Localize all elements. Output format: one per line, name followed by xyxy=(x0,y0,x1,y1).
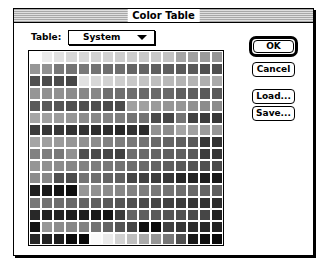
color-cell[interactable] xyxy=(163,52,173,62)
color-cell[interactable] xyxy=(115,210,125,220)
color-cell[interactable] xyxy=(79,222,89,232)
load-button[interactable]: Load... xyxy=(252,89,295,104)
color-cell[interactable] xyxy=(188,101,198,111)
color-cell[interactable] xyxy=(151,149,161,159)
color-cell[interactable] xyxy=(139,198,149,208)
color-cell[interactable] xyxy=(115,101,125,111)
color-cell[interactable] xyxy=(127,198,137,208)
color-cell[interactable] xyxy=(42,76,52,86)
color-cell[interactable] xyxy=(176,185,186,195)
color-cell[interactable] xyxy=(200,210,210,220)
color-cell[interactable] xyxy=(176,234,186,244)
save-button[interactable]: Save... xyxy=(252,106,295,121)
color-cell[interactable] xyxy=(30,234,40,244)
color-cell[interactable] xyxy=(176,76,186,86)
color-cell[interactable] xyxy=(200,52,210,62)
color-cell[interactable] xyxy=(42,222,52,232)
color-cell[interactable] xyxy=(200,173,210,183)
color-cell[interactable] xyxy=(30,88,40,98)
color-cell[interactable] xyxy=(91,149,101,159)
color-cell[interactable] xyxy=(163,125,173,135)
color-cell[interactable] xyxy=(115,185,125,195)
color-cell[interactable] xyxy=(66,173,76,183)
color-cell[interactable] xyxy=(163,210,173,220)
color-cell[interactable] xyxy=(151,185,161,195)
color-cell[interactable] xyxy=(212,198,222,208)
color-cell[interactable] xyxy=(139,185,149,195)
color-cell[interactable] xyxy=(91,64,101,74)
color-cell[interactable] xyxy=(176,137,186,147)
color-cell[interactable] xyxy=(103,222,113,232)
color-cell[interactable] xyxy=(54,88,64,98)
color-cell[interactable] xyxy=(91,137,101,147)
color-cell[interactable] xyxy=(42,88,52,98)
color-cell[interactable] xyxy=(115,198,125,208)
color-cell[interactable] xyxy=(127,161,137,171)
color-cell[interactable] xyxy=(115,125,125,135)
color-cell[interactable] xyxy=(200,185,210,195)
color-cell[interactable] xyxy=(163,101,173,111)
color-cell[interactable] xyxy=(42,64,52,74)
color-cell[interactable] xyxy=(151,173,161,183)
color-cell[interactable] xyxy=(103,234,113,244)
color-cell[interactable] xyxy=(91,125,101,135)
color-cell[interactable] xyxy=(151,198,161,208)
color-cell[interactable] xyxy=(139,222,149,232)
color-cell[interactable] xyxy=(79,64,89,74)
color-cell[interactable] xyxy=(66,161,76,171)
color-cell[interactable] xyxy=(115,52,125,62)
color-cell[interactable] xyxy=(30,64,40,74)
color-cell[interactable] xyxy=(79,149,89,159)
color-cell[interactable] xyxy=(176,52,186,62)
color-cell[interactable] xyxy=(176,210,186,220)
color-cell[interactable] xyxy=(163,76,173,86)
color-cell[interactable] xyxy=(188,64,198,74)
color-cell[interactable] xyxy=(176,149,186,159)
color-cell[interactable] xyxy=(66,76,76,86)
color-cell[interactable] xyxy=(91,173,101,183)
color-cell[interactable] xyxy=(66,101,76,111)
color-cell[interactable] xyxy=(115,64,125,74)
color-cell[interactable] xyxy=(139,76,149,86)
color-cell[interactable] xyxy=(79,161,89,171)
color-cell[interactable] xyxy=(127,137,137,147)
color-cell[interactable] xyxy=(127,52,137,62)
color-cell[interactable] xyxy=(176,101,186,111)
color-cell[interactable] xyxy=(163,149,173,159)
color-cell[interactable] xyxy=(54,76,64,86)
color-cell[interactable] xyxy=(163,88,173,98)
color-cell[interactable] xyxy=(176,113,186,123)
color-cell[interactable] xyxy=(66,88,76,98)
color-cell[interactable] xyxy=(163,113,173,123)
color-cell[interactable] xyxy=(103,173,113,183)
color-cell[interactable] xyxy=(103,185,113,195)
color-cell[interactable] xyxy=(79,137,89,147)
color-cell[interactable] xyxy=(66,234,76,244)
color-cell[interactable] xyxy=(42,210,52,220)
color-cell[interactable] xyxy=(30,125,40,135)
color-cell[interactable] xyxy=(54,161,64,171)
color-cell[interactable] xyxy=(139,113,149,123)
color-cell[interactable] xyxy=(212,125,222,135)
color-cell[interactable] xyxy=(139,149,149,159)
color-cell[interactable] xyxy=(30,101,40,111)
color-cell[interactable] xyxy=(103,198,113,208)
color-cell[interactable] xyxy=(115,173,125,183)
color-cell[interactable] xyxy=(79,52,89,62)
color-cell[interactable] xyxy=(176,222,186,232)
color-cell[interactable] xyxy=(42,137,52,147)
color-cell[interactable] xyxy=(115,137,125,147)
color-cell[interactable] xyxy=(66,64,76,74)
color-cell[interactable] xyxy=(127,101,137,111)
color-cell[interactable] xyxy=(127,185,137,195)
color-cell[interactable] xyxy=(127,173,137,183)
color-cell[interactable] xyxy=(188,173,198,183)
color-cell[interactable] xyxy=(66,185,76,195)
color-cell[interactable] xyxy=(212,149,222,159)
color-cell[interactable] xyxy=(212,76,222,86)
color-cell[interactable] xyxy=(151,88,161,98)
color-cell[interactable] xyxy=(163,185,173,195)
color-cell[interactable] xyxy=(212,222,222,232)
color-cell[interactable] xyxy=(91,210,101,220)
color-cell[interactable] xyxy=(66,137,76,147)
